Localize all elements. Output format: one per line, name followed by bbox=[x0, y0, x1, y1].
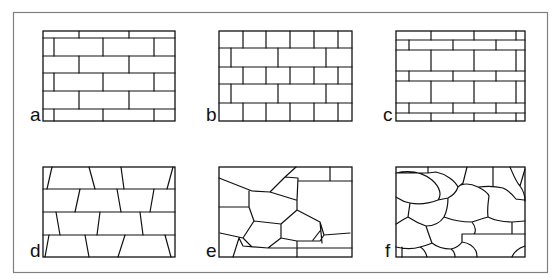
panel-a-outline bbox=[43, 31, 175, 121]
panel-label-f: f bbox=[385, 240, 391, 261]
panel-c: c bbox=[383, 31, 525, 125]
panel-b: b bbox=[206, 31, 352, 125]
panel-label-e: e bbox=[206, 240, 217, 261]
panel-d: d bbox=[30, 167, 175, 261]
panel-e: e bbox=[206, 167, 352, 261]
masonry-patterns-figure: a b c d e f bbox=[0, 0, 559, 280]
panel-a: a bbox=[30, 31, 175, 125]
panel-b-outline bbox=[219, 31, 352, 121]
panel-label-b: b bbox=[206, 104, 217, 125]
panel-f: f bbox=[385, 167, 525, 261]
panel-c-outline bbox=[396, 31, 525, 121]
panel-label-a: a bbox=[30, 104, 41, 125]
panel-label-c: c bbox=[383, 104, 393, 125]
panel-label-d: d bbox=[30, 240, 41, 261]
